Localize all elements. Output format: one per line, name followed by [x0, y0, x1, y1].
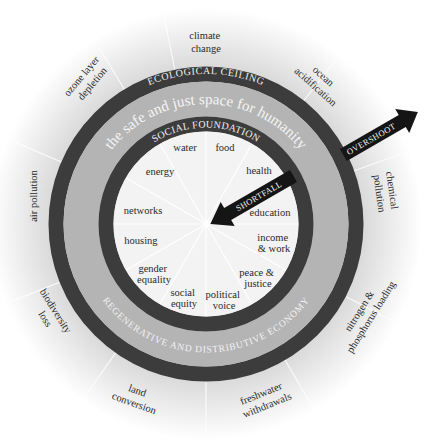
item-education: education: [250, 207, 292, 218]
item-income-work: income & work: [257, 232, 291, 254]
item-housing: housing: [124, 235, 158, 246]
item-social-equity: social equity: [170, 287, 197, 309]
item-energy: energy: [146, 166, 175, 177]
doughnut-diagram: ECOLOGICAL CEILING the safe and just spa…: [0, 0, 425, 442]
item-gender-equality: gender equality: [137, 263, 172, 285]
item-food: food: [215, 142, 235, 153]
item-water: water: [173, 142, 197, 153]
item-air-pollution: air pollution: [28, 169, 39, 221]
item-peace-justice: peace & justice: [239, 267, 276, 289]
item-networks: networks: [124, 205, 163, 216]
item-health: health: [246, 165, 272, 176]
